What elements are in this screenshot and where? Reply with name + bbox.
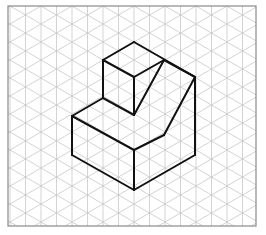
stepped-block-outline bbox=[72, 42, 195, 190]
isometric-grid bbox=[0, 0, 266, 235]
edge-line bbox=[134, 135, 164, 150]
edge-line bbox=[164, 60, 195, 77]
drawing-canvas bbox=[0, 0, 266, 235]
edge-line bbox=[164, 77, 195, 135]
isometric-figure bbox=[0, 0, 266, 235]
edge-line bbox=[134, 155, 195, 190]
